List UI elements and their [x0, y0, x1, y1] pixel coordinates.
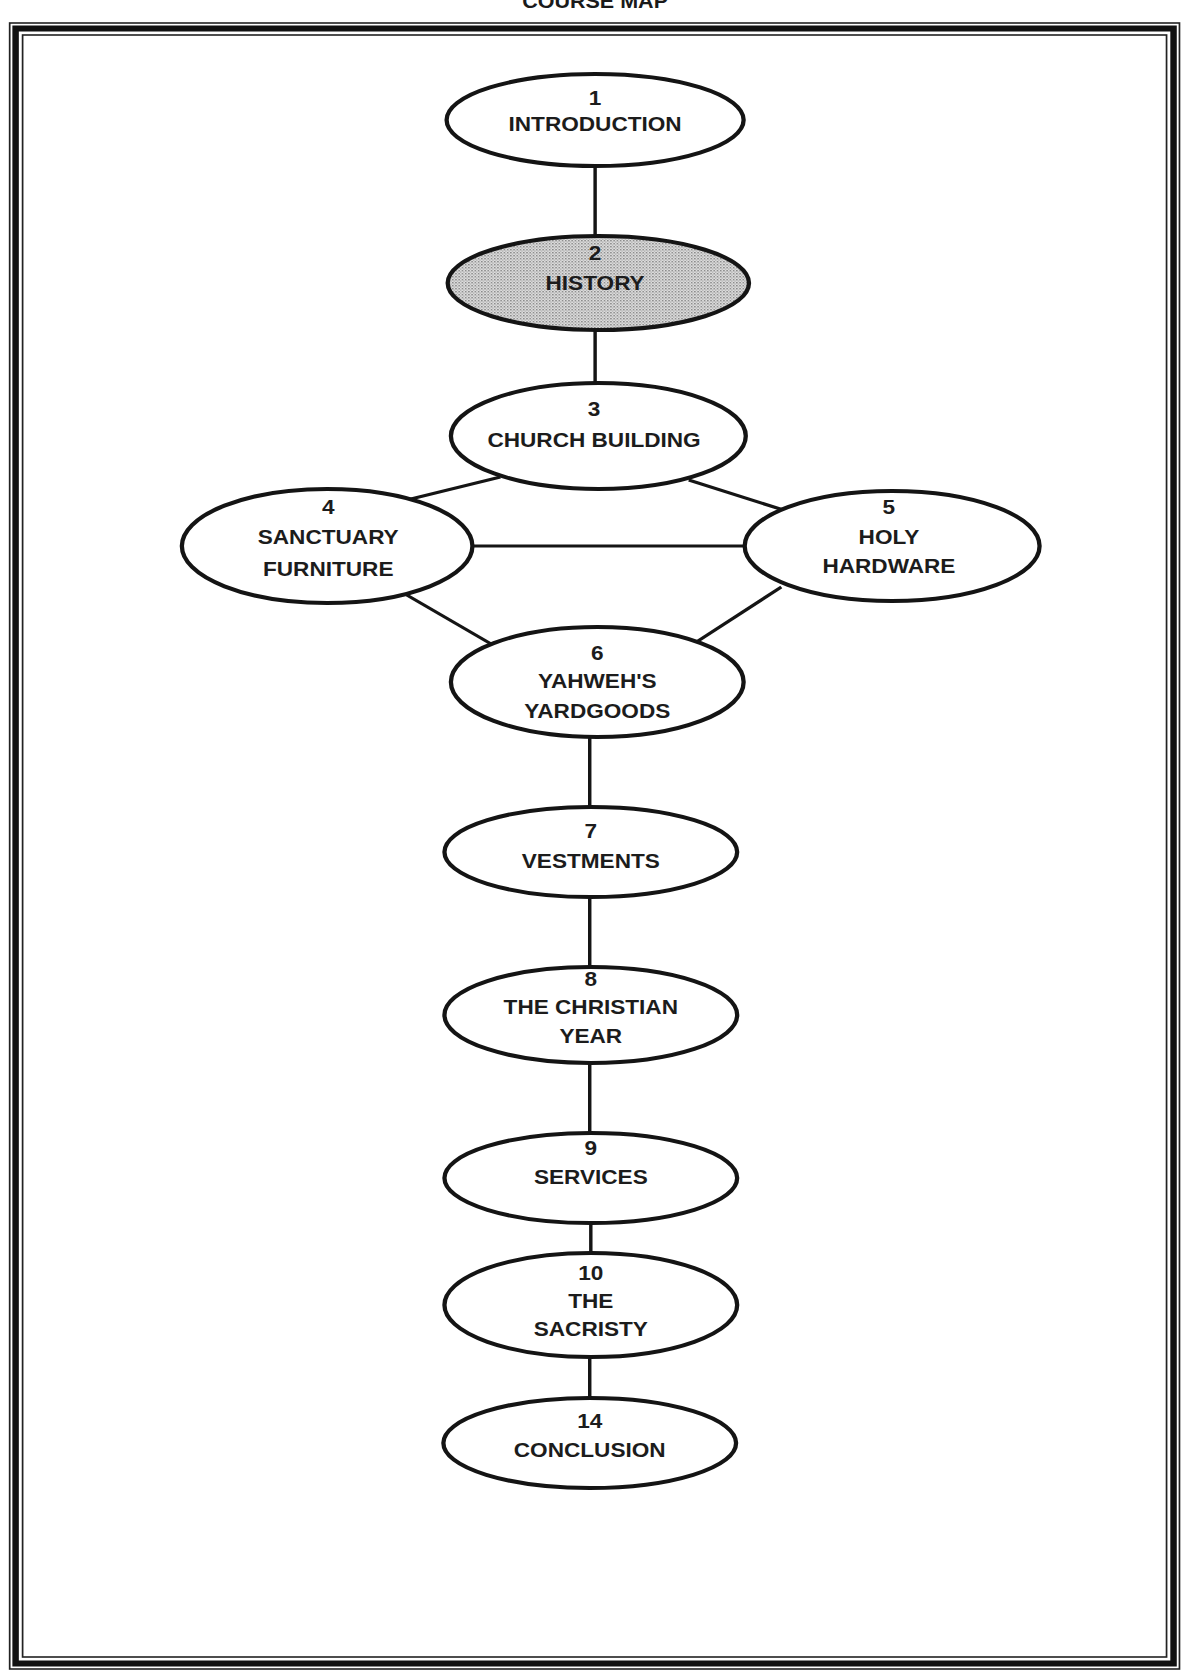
node-number: 9: [585, 1136, 598, 1160]
node-number: 7: [585, 819, 598, 843]
node-label: CONCLUSION: [514, 1438, 666, 1462]
node-number: 6: [591, 641, 604, 665]
node-number: 10: [578, 1261, 603, 1285]
node-label-line-2: YEAR: [559, 1024, 622, 1048]
edge-4-6: [407, 595, 502, 650]
course-map-page: COURSE MAP 1 INTRODUCTION: [0, 0, 1187, 1677]
node-services: 9 SERVICES: [444, 1133, 737, 1223]
node-label-line-1: THE: [568, 1289, 613, 1313]
node-history: 2 HISTORY: [448, 236, 749, 330]
node-vestments: 7 VESTMENTS: [444, 807, 737, 897]
node-label-line-1: YAHWEH'S: [538, 669, 657, 693]
page-title: COURSE MAP: [522, 0, 668, 12]
edge-3-5: [689, 480, 784, 510]
node-label-line-2: FURNITURE: [263, 557, 393, 581]
node-number: 14: [577, 1409, 602, 1433]
edge-5-6: [689, 587, 782, 647]
node-holy-hardware: 5 HOLY HARDWARE: [745, 491, 1040, 601]
node-number: 5: [883, 495, 896, 519]
node-number: 1: [589, 86, 602, 110]
node-label-line-2: YARDGOODS: [524, 699, 670, 723]
edge-3-4: [407, 477, 501, 500]
node-number: 4: [322, 495, 335, 519]
node-label: HISTORY: [546, 271, 646, 295]
node-label: SERVICES: [534, 1165, 648, 1189]
node-christian-year: 8 THE CHRISTIAN YEAR: [444, 967, 737, 1063]
node-number: 8: [585, 967, 598, 991]
node-church-building: 3 CHURCH BUILDING: [451, 383, 746, 489]
node-conclusion: 14 CONCLUSION: [443, 1398, 736, 1488]
node-label-line-2: HARDWARE: [822, 554, 955, 578]
node-label-line-2: SACRISTY: [534, 1317, 649, 1341]
node-label-line-1: HOLY: [859, 525, 920, 549]
node-sanctuary-furniture: 4 SANCTUARY FURNITURE: [182, 489, 473, 603]
node-number: 3: [588, 397, 601, 421]
node-introduction: 1 INTRODUCTION: [447, 74, 744, 166]
node-label: INTRODUCTION: [509, 112, 682, 136]
node-label: CHURCH BUILDING: [487, 428, 700, 452]
node-number: 2: [589, 241, 602, 265]
node-label-line-1: SANCTUARY: [258, 525, 399, 549]
node-sacristy: 10 THE SACRISTY: [444, 1253, 737, 1357]
course-map-diagram: COURSE MAP 1 INTRODUCTION: [0, 0, 1187, 1677]
node-label-line-1: THE CHRISTIAN: [504, 995, 678, 1019]
node-yahwehs-yardgoods: 6 YAHWEH'S YARDGOODS: [451, 627, 744, 737]
node-label: VESTMENTS: [522, 849, 660, 873]
